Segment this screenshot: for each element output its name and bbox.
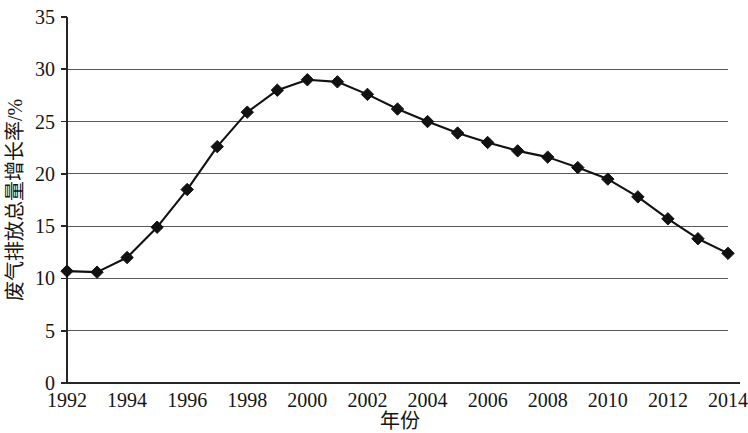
y-tick-label-25: 25 bbox=[35, 111, 55, 133]
x-tick-label-2010: 2010 bbox=[588, 389, 628, 411]
y-tick-label-30: 30 bbox=[35, 58, 55, 80]
y-tick-label-20: 20 bbox=[35, 163, 55, 185]
chart-figure: 05101520253035 1992199419961998200020022… bbox=[0, 0, 748, 433]
y-tick-label-10: 10 bbox=[35, 267, 55, 289]
x-tick-label-1992: 1992 bbox=[47, 389, 87, 411]
y-tick-label-35: 35 bbox=[35, 6, 55, 28]
x-tick-label-2008: 2008 bbox=[528, 389, 568, 411]
y-tick-label-15: 15 bbox=[35, 215, 55, 237]
x-tick-label-2012: 2012 bbox=[648, 389, 688, 411]
x-tick-label-2014: 2014 bbox=[708, 389, 748, 411]
x-tick-label-2004: 2004 bbox=[408, 389, 448, 411]
y-axis-title: 废气排放总量增长率/% bbox=[4, 99, 26, 301]
x-tick-label-2002: 2002 bbox=[347, 389, 387, 411]
x-axis-title: 年份 bbox=[380, 410, 420, 432]
x-tick-label-1996: 1996 bbox=[167, 389, 207, 411]
chart-background bbox=[0, 0, 748, 433]
y-tick-label-5: 5 bbox=[45, 320, 55, 342]
x-tick-label-2006: 2006 bbox=[468, 389, 508, 411]
x-tick-label-1998: 1998 bbox=[227, 389, 267, 411]
line-chart: 05101520253035 1992199419961998200020022… bbox=[0, 0, 748, 433]
x-tick-label-2000: 2000 bbox=[287, 389, 327, 411]
x-tick-label-1994: 1994 bbox=[107, 389, 147, 411]
